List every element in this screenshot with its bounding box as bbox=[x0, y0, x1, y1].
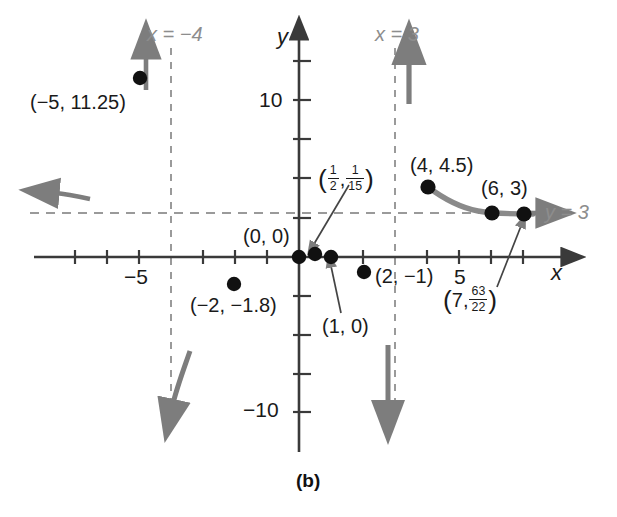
coordinate-plane bbox=[0, 0, 617, 517]
point-label-pt-1: (1, 0) bbox=[322, 316, 369, 336]
point-label-pt-m5: (−5, 11.25) bbox=[30, 92, 126, 112]
coord-separator: , bbox=[340, 169, 346, 189]
point-label-pt-0: (0, 0) bbox=[243, 226, 290, 246]
data-point-pt-m5[interactable] bbox=[133, 71, 147, 85]
point-label-pt-6: (6, 3) bbox=[481, 178, 528, 198]
x-axis-label: x bbox=[551, 262, 562, 284]
data-point-pt-1[interactable] bbox=[324, 250, 338, 264]
x-tick-label-5: 5 bbox=[454, 266, 466, 287]
fraction-one-fifteenth: 115 bbox=[346, 164, 364, 192]
point-label-pt-m2: (−2, −1.8) bbox=[190, 295, 277, 315]
y-axis-label: y bbox=[277, 26, 288, 48]
coord-x-seven: 7, bbox=[452, 290, 469, 310]
arrow-left-horizontal-asymptote bbox=[55, 193, 90, 199]
data-point-pt-m2[interactable] bbox=[227, 277, 241, 291]
data-point-pt-2[interactable] bbox=[357, 265, 371, 279]
point-label-pt-7: (7, 6322) bbox=[443, 286, 497, 314]
paren-open: ( bbox=[318, 166, 327, 192]
graph-figure: x = −4 x = 3 y = 3 x y −5 5 10 −10 (−5, … bbox=[0, 0, 617, 517]
vertical-asymptote-left-label: x = −4 bbox=[147, 24, 203, 44]
data-point-pt-0[interactable] bbox=[292, 250, 306, 264]
paren-close: ) bbox=[365, 166, 374, 192]
data-point-pt-6[interactable] bbox=[484, 205, 499, 220]
arrow-down-left-asymptote bbox=[173, 351, 190, 404]
data-point-pt-4[interactable] bbox=[420, 179, 435, 194]
data-point-pt-half[interactable] bbox=[308, 247, 322, 261]
point-label-pt-4: (4, 4.5) bbox=[410, 155, 473, 175]
paren-open-7: ( bbox=[443, 287, 452, 313]
vertical-asymptote-right-label: x = 3 bbox=[375, 24, 419, 44]
x-tick-label-minus5: −5 bbox=[124, 266, 148, 287]
y-tick-label-10: 10 bbox=[259, 89, 282, 110]
fraction-63-22: 6322 bbox=[469, 285, 487, 313]
point-label-pt-half: (12, 115) bbox=[318, 165, 374, 193]
horizontal-asymptote-label: y = 3 bbox=[545, 202, 589, 222]
paren-close-7: ) bbox=[488, 287, 497, 313]
point-label-pt-2: (2, −1) bbox=[375, 266, 433, 286]
y-axis-ticks bbox=[293, 61, 311, 412]
callout-line-one bbox=[331, 266, 341, 313]
data-point-pt-7[interactable] bbox=[516, 206, 531, 221]
y-tick-label-minus10: −10 bbox=[243, 399, 279, 420]
fraction-one-half: 12 bbox=[328, 164, 339, 192]
figure-caption: (b) bbox=[296, 470, 320, 492]
